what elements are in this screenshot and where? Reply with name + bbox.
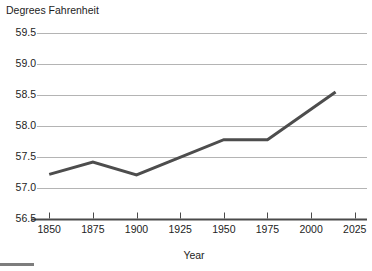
x-axis-tick-labels: 18501875190019251950197520002025 bbox=[0, 0, 372, 271]
x-axis-tick-label: 1900 bbox=[117, 223, 157, 235]
x-axis-tick-label: 2025 bbox=[335, 223, 372, 235]
x-axis-title-text: Year bbox=[183, 249, 204, 261]
scroll-edge-bar bbox=[0, 263, 34, 266]
x-axis-tick-label: 2000 bbox=[291, 223, 331, 235]
x-axis-tick-label: 1850 bbox=[29, 223, 69, 235]
x-axis-tick-label: 1875 bbox=[73, 223, 113, 235]
line-chart: Degrees Fahrenheit 59.559.058.558.057.55… bbox=[0, 0, 372, 271]
x-axis-tick-label: 1975 bbox=[247, 223, 287, 235]
x-axis-tick-label: 1925 bbox=[160, 223, 200, 235]
x-axis-title: Year bbox=[0, 249, 372, 261]
x-axis-tick-label: 1950 bbox=[204, 223, 244, 235]
